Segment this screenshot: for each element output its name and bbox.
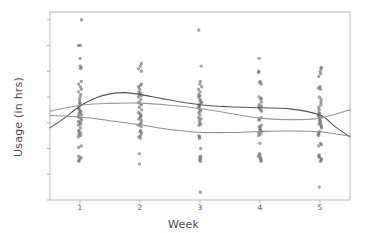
data-point (137, 152, 140, 155)
data-point (137, 67, 140, 70)
x-tick-label: 1 (70, 203, 90, 212)
data-point (80, 88, 83, 91)
data-point (260, 109, 263, 112)
data-point (77, 90, 80, 93)
data-point (259, 160, 262, 163)
data-point (260, 82, 263, 85)
data-point (257, 134, 260, 137)
data-point (320, 126, 323, 129)
data-point (200, 85, 203, 88)
scatter-points (77, 18, 324, 194)
data-point (80, 80, 83, 83)
data-point (257, 57, 260, 60)
data-point (257, 71, 260, 74)
data-point (138, 106, 141, 109)
x-axis-label: Week (0, 218, 367, 231)
data-point (319, 88, 322, 91)
data-point (138, 162, 141, 165)
data-point (258, 142, 261, 145)
data-point (260, 100, 263, 103)
data-point (257, 118, 260, 121)
chart-screenshot: Usage (in hrs) Week 010203040506070 1234… (0, 0, 367, 233)
data-point (199, 64, 202, 67)
data-point (198, 136, 201, 139)
data-point (79, 67, 82, 70)
data-point (317, 134, 320, 137)
data-point (80, 18, 83, 21)
data-point (77, 146, 80, 149)
x-tick-label: 2 (130, 203, 150, 212)
data-point (77, 135, 80, 138)
data-point (77, 44, 80, 47)
data-point (140, 108, 143, 111)
data-point (199, 191, 202, 194)
data-point (317, 75, 320, 78)
data-point (77, 160, 80, 163)
data-point (139, 136, 142, 139)
data-point (78, 57, 81, 60)
data-point (318, 185, 321, 188)
y-axis-label: Usage (in hrs) (12, 47, 25, 187)
data-point (199, 147, 202, 150)
data-point (137, 95, 140, 98)
scatter-plot-figure: Usage (in hrs) Week 010203040506070 1234… (0, 0, 367, 233)
data-point (317, 144, 320, 147)
data-point (197, 28, 200, 31)
x-tick-label: 5 (310, 203, 330, 212)
data-point (140, 70, 143, 73)
x-tick-label: 4 (250, 203, 270, 212)
data-point (197, 124, 200, 127)
plot-canvas (0, 0, 367, 233)
data-point (319, 160, 322, 163)
x-tick-label: 3 (190, 203, 210, 212)
data-point (199, 160, 202, 163)
